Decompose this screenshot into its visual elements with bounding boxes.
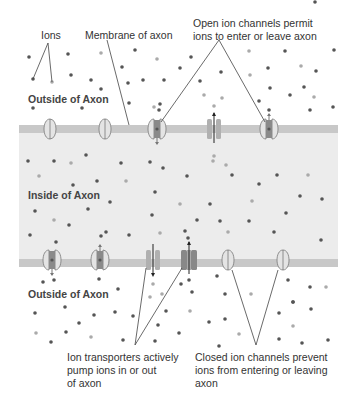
open-channel-icon [260, 113, 278, 139]
closed-channel-icon [99, 119, 111, 139]
closed-channels-line-1: Closed ion channels prevent [195, 351, 328, 364]
open-channels-line-1: Open ion channels permit [193, 17, 317, 30]
inside-axon-label: Inside of Axon [28, 189, 100, 201]
closed-channels-line-2: ions from entering or leaving [195, 364, 328, 377]
closed-channel-icon [277, 250, 289, 270]
outside-axon-top-label: Outside of Axon [28, 93, 109, 105]
membrane-label: Membrane of axon [85, 29, 173, 42]
closed-channel-icon [44, 119, 56, 139]
open-channels-label: Open ion channels permit ions to enter o… [193, 17, 317, 43]
closed-channel-icon [222, 250, 234, 270]
transporters-line-2: pump ions in or out [67, 364, 178, 377]
open-channel-icon [43, 250, 61, 276]
outside-axon-bottom-label: Outside of Axon [28, 288, 109, 300]
transporters-line-1: Ion transporters actively [67, 351, 178, 364]
closed-channels-label: Closed ion channels prevent ions from en… [195, 351, 328, 390]
transporters-label: Ion transporters actively pump ions in o… [67, 351, 178, 390]
transporters-line-3: of axon [67, 377, 178, 390]
top-membrane [19, 125, 338, 133]
closed-channels-line-3: axon [195, 377, 328, 390]
bottom-membrane [19, 259, 338, 267]
ions-label: Ions [41, 29, 61, 42]
transporter-icon [207, 112, 221, 143]
open-channels-line-2: ions to enter or leave axon [193, 30, 317, 43]
